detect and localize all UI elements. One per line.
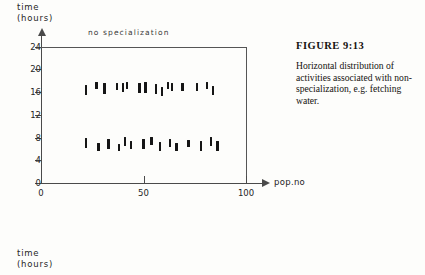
data-mark [196,83,199,91]
data-mark [118,144,121,151]
data-mark [161,87,164,96]
data-mark [212,86,215,95]
data-mark [122,83,125,92]
data-mark [97,143,100,152]
data-mark [171,83,174,92]
data-mark [142,139,145,149]
data-mark [150,137,153,146]
data-mark [130,141,133,148]
data-mark [181,83,184,92]
figure-number: FIGURE 9:13 [296,40,424,51]
data-mark [85,85,88,95]
data-mark [206,82,209,89]
data-mark [216,141,219,150]
next-chart-y-axis-title: time(hours) [17,248,53,270]
figure-page: time(hours) no specialization 0481216202… [0,0,425,275]
data-mark [200,141,203,150]
data-mark [159,142,162,151]
data-mark [138,83,141,94]
chart-no-specialization: time(hours) no specialization 0481216202… [0,0,285,215]
data-mark [107,139,110,149]
data-mark [187,140,190,147]
data-mark [126,82,129,89]
figure-description: Horizontal distribution of activities as… [296,60,424,106]
next-chart-y-axis-title-line1: time [17,248,39,258]
data-mark [116,83,119,90]
data-mark [85,138,88,148]
data-mark [144,82,147,92]
next-chart-y-axis-title-line2: (hours) [17,259,53,269]
data-marks-layer [0,0,285,215]
data-mark [169,139,172,147]
data-mark [95,82,98,89]
data-mark [175,143,178,150]
figure-caption: FIGURE 9:13 Horizontal distribution of a… [296,40,424,106]
data-mark [103,83,106,93]
data-mark [155,84,158,94]
data-mark [167,82,170,89]
data-mark [210,137,213,146]
data-mark [124,137,127,146]
